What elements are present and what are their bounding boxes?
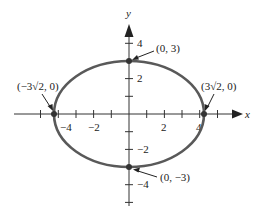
x-axis-label: x <box>244 108 250 120</box>
y-axis-arrow-icon <box>125 24 134 37</box>
ellipse-figure: x y − <box>0 0 254 216</box>
left-vertex-label: (−3√2, 0) <box>17 80 59 93</box>
left-vertex-point <box>51 111 57 117</box>
right-vertex-label: (3√2, 0) <box>201 80 237 93</box>
y-tick-label-2: 2 <box>137 72 143 84</box>
x-axis-arrow-icon <box>232 110 243 119</box>
top-vertex-point <box>126 58 132 64</box>
y-tick-label-neg4: −4 <box>137 178 149 190</box>
y-tick-label-4: 4 <box>137 37 143 49</box>
x-tick-label-neg4: −4 <box>60 121 72 133</box>
bottom-vertex-label: (0, −3) <box>160 171 190 184</box>
bottom-vertex-arrow-icon <box>138 171 157 177</box>
top-vertex-label: (0, 3) <box>156 42 180 55</box>
x-tick-label-neg2: −2 <box>88 121 100 133</box>
top-vertex-arrow-icon <box>136 51 154 58</box>
plot-canvas: x y − <box>0 0 254 216</box>
bottom-vertex-point <box>126 164 132 170</box>
right-vertex-point <box>201 111 207 117</box>
x-tick-label-2: 2 <box>161 121 167 133</box>
y-tick-label-neg2: −2 <box>137 143 149 155</box>
y-axis-label: y <box>125 7 131 19</box>
